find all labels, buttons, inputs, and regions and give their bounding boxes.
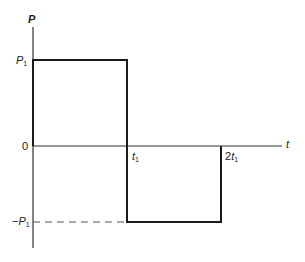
neg-p1-sub: 1 — [26, 221, 30, 228]
p1-label: P1 — [16, 55, 27, 67]
two-t1-label: 2t1 — [225, 151, 238, 163]
positive-pulse — [33, 60, 127, 146]
t-axis-label: t — [286, 139, 289, 150]
negative-pulse — [127, 146, 221, 222]
t1-sub: 1 — [135, 156, 139, 163]
y-axis-label: P — [28, 14, 35, 25]
pulse-diagram — [0, 0, 305, 262]
p1-sub: 1 — [23, 60, 27, 67]
two-t1-sub: 1 — [234, 156, 238, 163]
neg-p1-main: P — [18, 215, 25, 227]
neg-p1-label: −P1 — [12, 216, 30, 228]
zero-label: 0 — [22, 141, 28, 152]
t1-label: t1 — [132, 151, 139, 163]
